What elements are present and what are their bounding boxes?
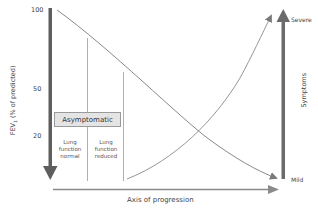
asymptomatic-label: Asymptomatic: [62, 116, 113, 124]
fev1-label-rest: (% of predicted): [9, 66, 17, 121]
fev1-axis-label: FEV1 (% of predicted): [10, 65, 19, 135]
tick-20: 20: [33, 133, 41, 140]
asymptomatic-box: Asymptomatic: [54, 112, 121, 127]
symptoms-rise-curve: [127, 16, 271, 179]
phase-label-reduced: Lung function reduced: [89, 139, 123, 160]
mild-label: Mild: [291, 177, 303, 183]
symptoms-axis-arrow: [277, 9, 291, 179]
tick-50: 50: [33, 86, 41, 93]
symptoms-axis-label: Symptoms: [301, 70, 308, 110]
progression-axis-label: Axis of progression: [127, 197, 194, 204]
phase-label-normal: Lung function normal: [53, 139, 87, 160]
fev1-label-main: FEV: [9, 123, 17, 135]
fev1-label-subscript: 1: [13, 120, 18, 123]
copd-progression-diagram: FEV1 (% of predicted) 100 50 20 Asymptom…: [0, 0, 318, 211]
severe-label: Severe: [291, 17, 312, 23]
diagram-graphics: [0, 0, 318, 211]
tick-100: 100: [31, 7, 43, 14]
progression-axis-arrow: [53, 185, 279, 194]
